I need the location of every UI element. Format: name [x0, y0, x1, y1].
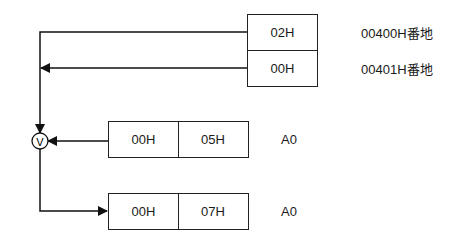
- line-to-result: [40, 149, 107, 211]
- memory-cell-00401h: 00H: [247, 50, 318, 87]
- operand-register-high: 00H: [108, 121, 179, 158]
- result-register-high: 00H: [108, 193, 179, 230]
- register-byte: 00H: [132, 204, 156, 219]
- memory-value: 02H: [271, 25, 295, 40]
- memory-address-00400h: 00400H番地: [361, 23, 433, 42]
- operand-register-name: A0: [281, 132, 297, 147]
- memory-cell-00400h: 02H: [247, 14, 318, 51]
- or-operator-symbol: V: [36, 136, 44, 148]
- operand-register-low: 05H: [178, 121, 249, 158]
- memory-address-00401h: 00401H番地: [361, 59, 433, 78]
- line-from-00400h: [40, 32, 247, 133]
- result-register-name: A0: [281, 204, 297, 219]
- register-byte: 00H: [132, 132, 156, 147]
- register-byte: 05H: [201, 132, 225, 147]
- memory-value: 00H: [271, 61, 295, 76]
- result-register-low: 07H: [178, 193, 249, 230]
- register-byte: 07H: [201, 204, 225, 219]
